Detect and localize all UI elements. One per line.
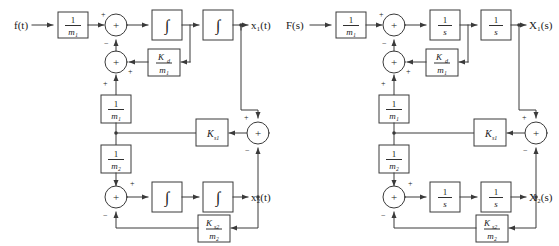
sum-right-sign-bottom-s: − bbox=[523, 146, 528, 155]
sum-mid-sign-right: + bbox=[128, 67, 133, 76]
frac-denominator: m₁ bbox=[111, 111, 121, 121]
sum-right-sign-top-s: + bbox=[522, 113, 527, 122]
sum-top-sign-bottom: − bbox=[104, 39, 109, 48]
frac-denominator: m₁ bbox=[159, 65, 169, 75]
label-input-ft: f(t) bbox=[14, 19, 28, 32]
frac-denominator: m₂ bbox=[111, 161, 121, 171]
label-output-x1t: x₁(t) bbox=[251, 19, 271, 32]
frac-numerator: 1 bbox=[443, 15, 448, 25]
frac-numerator: 1 bbox=[494, 15, 499, 25]
frac-numerator: 1 bbox=[392, 99, 397, 109]
frac-denominator: m₁ bbox=[389, 111, 399, 121]
sum-bottom-sign-top-s: + bbox=[408, 179, 413, 188]
sum-bottom-glyph-s: + bbox=[391, 191, 397, 203]
sum-bottom-glyph: + bbox=[113, 191, 119, 203]
label-output-x1s: X₁(s) bbox=[529, 19, 553, 32]
diagram-canvas: f(t) x₁(t) x₂(t) 1 m₁ ∫ ∫ K d m₁ 1 m₁ 1 … bbox=[0, 0, 559, 246]
label-input-fs: F(s) bbox=[286, 19, 304, 32]
frac-denominator: m₂ bbox=[209, 231, 219, 241]
sum-top-glyph-s: + bbox=[391, 19, 397, 31]
frac-denominator: s bbox=[443, 199, 447, 209]
sum-mid-glyph: + bbox=[113, 56, 119, 68]
sum-right-sign-bottom: − bbox=[245, 146, 250, 155]
sum-top-glyph: + bbox=[113, 19, 119, 31]
gain-subscript: s1 bbox=[214, 135, 219, 141]
frac-numerator: K bbox=[205, 218, 213, 228]
wire-x1-to-sumright-s bbox=[519, 25, 536, 118]
frac-numerator: K bbox=[157, 52, 165, 62]
sum-right-glyph-s: + bbox=[533, 127, 539, 139]
frac-numerator: K bbox=[435, 52, 443, 62]
frac-numerator: 1 bbox=[349, 15, 354, 25]
wire-ks2-to-sumbottom-s bbox=[394, 212, 476, 228]
sum-top-sign-bottom-s: − bbox=[382, 39, 387, 48]
sum-mid-glyph-s: + bbox=[391, 56, 397, 68]
sum-top-sign-left: + bbox=[101, 10, 106, 19]
frac-denominator: m₁ bbox=[68, 27, 78, 37]
sum-mid-sign-right-s: + bbox=[406, 67, 411, 76]
wire-ks2-to-sumbottom bbox=[116, 212, 198, 228]
frac-numerator: 1 bbox=[494, 187, 499, 197]
sum-top-sign-left-s: + bbox=[379, 10, 384, 19]
frac-denominator: s bbox=[494, 27, 498, 37]
frac-denominator: m₂ bbox=[487, 231, 497, 241]
diagram-time-domain bbox=[32, 10, 269, 242]
frac-denominator: m₁ bbox=[346, 27, 356, 37]
frac-denominator: m₂ bbox=[389, 161, 399, 171]
sum-right-sign-top: + bbox=[244, 113, 249, 122]
frac-numerator: 1 bbox=[443, 187, 448, 197]
frac-denominator: s bbox=[443, 27, 447, 37]
block-diagram-figure: f(t) x₁(t) x₂(t) 1 m₁ ∫ ∫ K d m₁ 1 m₁ 1 … bbox=[0, 0, 559, 246]
frac-numerator: 1 bbox=[114, 99, 119, 109]
frac-denominator: m₁ bbox=[437, 65, 447, 75]
wire-x1-to-sumright bbox=[241, 25, 258, 118]
sum-mid-sign-bottom-s: + bbox=[381, 79, 386, 88]
sum-bottom-sign-bottom-s: − bbox=[381, 211, 386, 220]
frac-denominator: s bbox=[494, 199, 498, 209]
frac-numerator: K bbox=[483, 218, 491, 228]
sum-bottom-sign-top: + bbox=[130, 179, 135, 188]
sum-mid-sign-bottom: + bbox=[103, 79, 108, 88]
sum-bottom-sign-bottom: − bbox=[103, 211, 108, 220]
label-output-x2s: X₂(s) bbox=[529, 191, 553, 204]
frac-numerator: 1 bbox=[71, 15, 76, 25]
frac-numerator: 1 bbox=[392, 149, 397, 159]
diagram-laplace-domain bbox=[310, 10, 547, 242]
frac-numerator: 1 bbox=[114, 149, 119, 159]
sum-right-glyph: + bbox=[255, 127, 261, 139]
gain-subscript: s1 bbox=[492, 135, 497, 141]
label-output-x2t: x₂(t) bbox=[251, 191, 271, 204]
